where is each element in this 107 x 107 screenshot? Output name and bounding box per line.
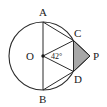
segment-chord-ac <box>43 22 74 41</box>
angle-label-cod: 42° <box>51 52 62 61</box>
segment-chord-bd <box>43 72 74 91</box>
geometry-canvas: A B C D O P 42° <box>0 0 107 107</box>
shaded-triangle-cpd <box>74 41 91 72</box>
point-label-a: A <box>39 6 47 18</box>
point-label-c: C <box>74 27 81 39</box>
point-label-o: O <box>26 50 34 62</box>
point-label-b: B <box>39 93 46 105</box>
point-label-d: D <box>74 73 82 85</box>
point-label-p: P <box>93 50 99 62</box>
geometry-figure: A B C D O P 42° <box>0 0 107 107</box>
center-point-dot <box>41 54 44 57</box>
